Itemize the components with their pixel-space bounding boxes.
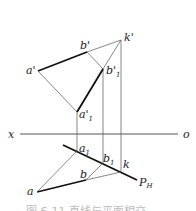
line-a-prime-b-prime bbox=[38, 52, 87, 71]
line-b-prime-k-prime bbox=[87, 40, 121, 52]
line-a-prime-a1-prime bbox=[38, 71, 77, 112]
label-k: k bbox=[123, 158, 130, 171]
figure-caption: 图 6-11 直线与平面相交 bbox=[26, 204, 146, 211]
label-a: a bbox=[27, 185, 34, 198]
label-b1-prime: b'1 bbox=[106, 64, 121, 79]
label-a-prime: a' bbox=[26, 64, 36, 77]
line-b-prime-b1-prime bbox=[87, 52, 103, 69]
axis-label-o: o bbox=[183, 128, 190, 141]
axis-label-x: x bbox=[8, 128, 15, 141]
label-a1: a1 bbox=[79, 142, 90, 157]
label-plane-trace: PH bbox=[138, 176, 153, 190]
line-a-b bbox=[37, 180, 86, 192]
label-b: b bbox=[80, 168, 87, 181]
label-k-prime: k' bbox=[124, 31, 134, 44]
line-b-b1 bbox=[86, 163, 103, 180]
label-a1-prime: a'1 bbox=[79, 108, 93, 123]
line-a1-prime-b1-prime bbox=[77, 69, 103, 112]
line-a-a1 bbox=[37, 151, 77, 192]
line-b-k bbox=[86, 172, 121, 180]
projection-diagram: x o a' b' k' b'1 a'1 a1 b1 k b a PH 图 6-… bbox=[0, 0, 196, 211]
label-b-prime: b' bbox=[80, 39, 90, 52]
label-b1: b1 bbox=[103, 152, 115, 167]
